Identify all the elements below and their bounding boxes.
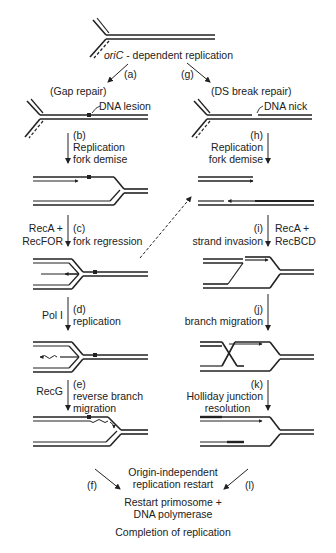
step-c-text: fork regression — [73, 235, 142, 247]
dna-lesion-label: DNA lesion — [99, 100, 151, 112]
restart-line2: replication restart — [108, 478, 238, 490]
title-oric: oriC — [104, 49, 123, 61]
step-b-line1: Replication — [73, 141, 125, 153]
title-suffix: - dependent replication — [123, 49, 233, 61]
recBCD-enzyme: RecBCD — [275, 235, 316, 247]
step-a-label: (a) — [124, 68, 137, 80]
step-b-letter: (b) — [73, 129, 86, 141]
step-l-label: (l) — [245, 479, 254, 491]
step-k-letter: (k) — [170, 378, 263, 390]
step-e-line1: reverse branch — [73, 390, 143, 402]
gap-repair-heading: (Gap repair) — [50, 85, 107, 97]
right-broken-fork — [198, 177, 314, 205]
left-regressed-fork — [33, 259, 148, 289]
step-k-line2: resolution — [190, 402, 265, 414]
left-reset-fork — [33, 415, 148, 446]
recG-enzyme: RecG — [20, 385, 63, 397]
step-k-line1: Holliday junction — [170, 390, 263, 402]
restart-line1: Origin-independent — [108, 466, 238, 478]
right-holliday-junction — [200, 342, 314, 371]
step-j-text: branch migration — [170, 315, 263, 327]
step-i-letter: (i) — [180, 222, 263, 234]
step-h-letter: (h) — [198, 129, 263, 141]
primosome-line2: DNA polymerase — [98, 508, 248, 520]
recA-enzyme-left: RecA + — [10, 222, 63, 234]
step-g-label: (g) — [181, 68, 194, 80]
step-h-line1: Replication — [198, 141, 263, 153]
step-d-letter: (d) — [73, 303, 86, 315]
left-pol1-extended-fork — [33, 342, 148, 372]
step-e-letter: (e) — [73, 378, 86, 390]
completion-of-replication: Completion of replication — [88, 526, 258, 538]
pol1-enzyme: Pol I — [20, 309, 63, 321]
right-resolved-fork — [200, 417, 314, 446]
dna-nick-label: DNA nick — [264, 100, 307, 112]
step-j-letter: (j) — [170, 303, 263, 315]
step-d-text: replication — [73, 315, 121, 327]
step-f-label: (f) — [87, 479, 97, 491]
step-i-text: strand invasion — [180, 235, 263, 247]
step-c-letter: (c) — [73, 222, 85, 234]
recFOR-enzyme: RecFOR — [10, 235, 63, 247]
recA-enzyme-right: RecA + — [275, 222, 309, 234]
lesion-marker — [87, 113, 91, 117]
ds-break-repair-heading: (DS break repair) — [211, 85, 292, 97]
left-stalled-fork — [33, 175, 148, 205]
step-b-line2: fork demise — [73, 153, 127, 165]
primosome-line1: Restart primosome + — [98, 496, 248, 508]
title-oric-dependent-replication: oriC - dependent replication — [104, 49, 233, 61]
right-strand-invasion — [203, 257, 314, 288]
step-e-line2: migration — [73, 402, 116, 414]
step-h-line2: fork demise — [198, 153, 263, 165]
